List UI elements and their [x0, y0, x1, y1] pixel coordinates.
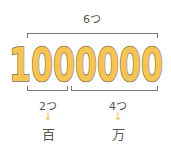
down-arrow-icon: ↓: [103, 110, 133, 123]
down-arrow-icon: ↓: [33, 110, 63, 123]
left-bottom-bracket: [27, 86, 68, 91]
top-bracket: [27, 33, 158, 38]
right-bottom-bracket: [71, 86, 158, 91]
group-1-unit-label: 百: [33, 124, 63, 143]
number-text: 1000000: [9, 40, 163, 86]
total-digit-count-label: 6つ: [77, 10, 107, 26]
number-display: 1000000: [6, 40, 166, 86]
group-2-unit-label: 万: [103, 124, 133, 143]
